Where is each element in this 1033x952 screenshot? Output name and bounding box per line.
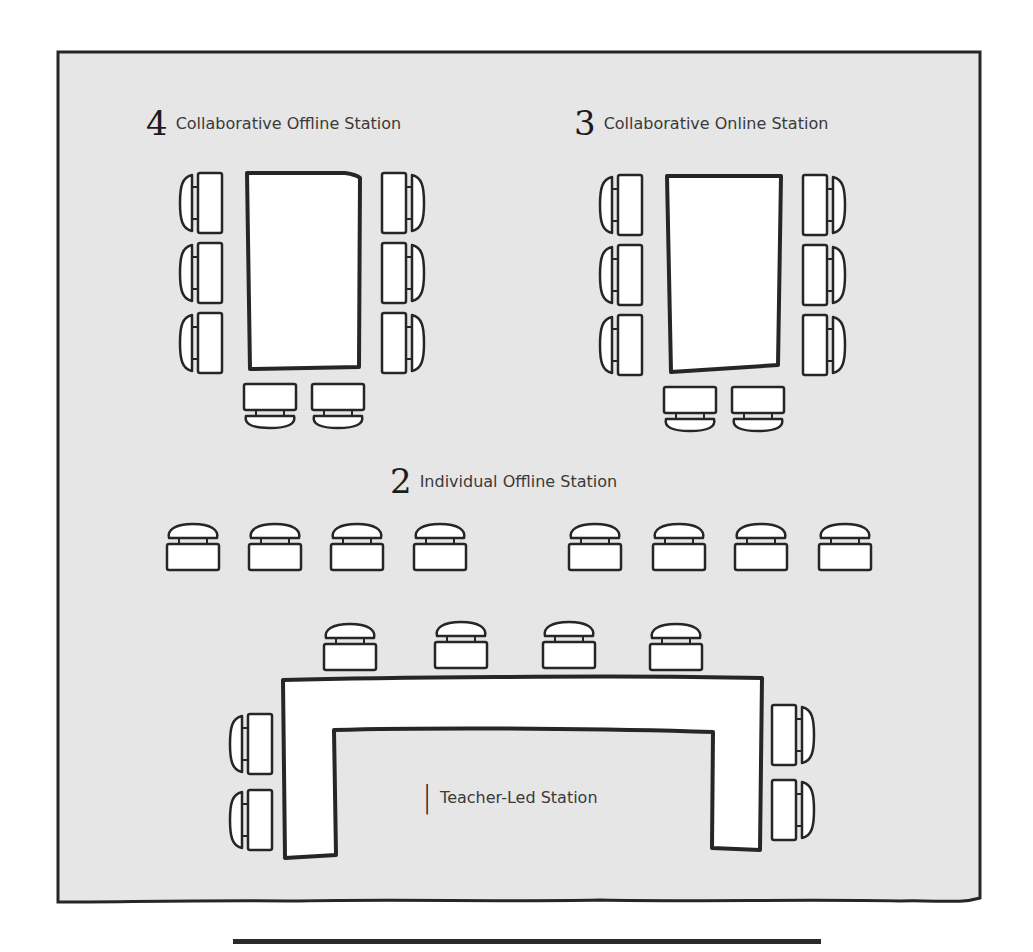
station-name: Teacher-Led Station bbox=[440, 788, 597, 807]
desk-with-chair-icon bbox=[249, 524, 301, 570]
desk-with-chair-icon bbox=[230, 790, 272, 850]
desk-with-chair-icon bbox=[244, 384, 296, 428]
desk-with-chair-icon bbox=[569, 524, 621, 570]
station-number: 3 bbox=[574, 106, 596, 140]
station-name: Individual Offline Station bbox=[420, 472, 617, 491]
station-number: 2 bbox=[390, 464, 412, 498]
desk-with-chair-icon bbox=[803, 315, 845, 375]
desk-with-chair-icon bbox=[167, 524, 219, 570]
desk-with-chair-icon bbox=[732, 387, 784, 431]
desk-with-chair-icon bbox=[180, 313, 222, 373]
desk-with-chair-icon bbox=[414, 524, 466, 570]
desk-with-chair-icon bbox=[324, 624, 376, 670]
table-icon bbox=[247, 173, 360, 369]
classroom-layout-diagram: 4 Collaborative Offline Station 3 Collab… bbox=[0, 0, 1033, 952]
divider-line bbox=[233, 939, 821, 944]
desk-with-chair-icon bbox=[382, 243, 424, 303]
desk-with-chair-icon bbox=[803, 245, 845, 305]
desk-with-chair-icon bbox=[650, 624, 702, 670]
desk-with-chair-icon bbox=[803, 175, 845, 235]
desk-with-chair-icon bbox=[600, 175, 642, 235]
desk-with-chair-icon bbox=[230, 714, 272, 774]
table-icon bbox=[667, 176, 781, 372]
desk-with-chair-icon bbox=[312, 384, 364, 428]
station-name: Collaborative Online Station bbox=[604, 114, 829, 133]
desk-with-chair-icon bbox=[331, 524, 383, 570]
desk-with-chair-icon bbox=[600, 315, 642, 375]
desk-with-chair-icon bbox=[772, 705, 814, 765]
station-name: Collaborative Offline Station bbox=[176, 114, 402, 133]
station-number: | bbox=[422, 782, 432, 812]
station-1-label: | Teacher-Led Station bbox=[422, 782, 598, 812]
desk-with-chair-icon bbox=[180, 243, 222, 303]
desk-with-chair-icon bbox=[543, 622, 595, 668]
station-4-label: 4 Collaborative Offline Station bbox=[146, 106, 401, 140]
desk-with-chair-icon bbox=[382, 313, 424, 373]
desk-with-chair-icon bbox=[664, 387, 716, 431]
desk-with-chair-icon bbox=[653, 524, 705, 570]
desk-with-chair-icon bbox=[735, 524, 787, 570]
station-3-label: 3 Collaborative Online Station bbox=[574, 106, 828, 140]
station-number: 4 bbox=[146, 106, 168, 140]
desk-with-chair-icon bbox=[180, 173, 222, 233]
desk-with-chair-icon bbox=[819, 524, 871, 570]
desk-with-chair-icon bbox=[772, 780, 814, 840]
desk-with-chair-icon bbox=[600, 245, 642, 305]
station-2-label: 2 Individual Offline Station bbox=[390, 464, 617, 498]
desk-with-chair-icon bbox=[382, 173, 424, 233]
desk-with-chair-icon bbox=[435, 622, 487, 668]
